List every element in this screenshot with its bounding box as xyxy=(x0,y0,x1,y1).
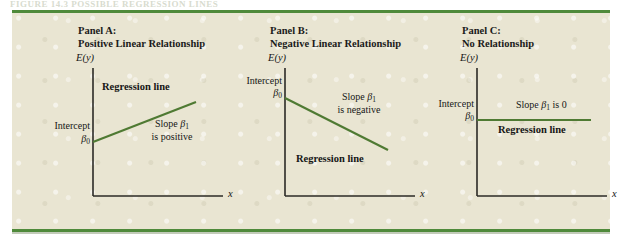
panel-c-slope-prefix: Slope xyxy=(516,99,541,110)
panel-c-intercept-label: Intercept xyxy=(418,98,474,109)
panel-c-slope-annotation: Slope β1 is 0 xyxy=(516,99,567,113)
panel-a-slope-annotation-line1: Slope β1 xyxy=(136,118,208,132)
panel-b: Panel B: Negative Linear Relationship E(… xyxy=(252,20,442,226)
panel-c-y-axis-label: E(y) xyxy=(460,52,478,63)
panel-c-slope-suffix: is 0 xyxy=(550,99,567,110)
panel-a-slope-prefix: Slope xyxy=(155,118,180,129)
panel-a: Panel A: Positive Linear Relationship E(… xyxy=(60,20,250,226)
panel-b-slope-prefix: Slope xyxy=(342,91,367,102)
figure-body: Panel A: Positive Linear Relationship E(… xyxy=(12,10,610,232)
panel-b-title-line1: Panel B: xyxy=(270,25,308,36)
panel-c-title: Panel C: No Relationship xyxy=(462,24,534,50)
top-rule xyxy=(12,10,610,13)
panel-a-slope-annotation-line2: is positive xyxy=(136,131,208,142)
panel-c-intercept-symbol: β0 xyxy=(418,110,474,124)
panel-b-title: Panel B: Negative Linear Relationship xyxy=(270,24,401,50)
panel-c-title-line1: Panel C: xyxy=(462,25,501,36)
panel-c-plot: E(y) x Intercept β0 Slope β1 is 0 Regres… xyxy=(444,54,622,224)
panel-b-slope-annotation-line2: is negative xyxy=(322,104,396,115)
panel-a-regression-label: Regression line xyxy=(102,81,170,92)
panel-a-x-axis-label: x xyxy=(228,188,233,199)
panel-b-x-axis-label: x xyxy=(420,188,425,199)
panel-b-regression-label: Regression line xyxy=(296,153,364,164)
panel-a-title: Panel A: Positive Linear Relationship xyxy=(78,24,205,50)
panel-c-title-line2: No Relationship xyxy=(462,37,534,50)
panel-a-y-axis-label: E(y) xyxy=(76,52,94,63)
panel-c-x-axis-label: x xyxy=(612,188,617,199)
panel-c-axes-svg xyxy=(444,54,622,224)
panel-a-plot: E(y) x Intercept β0 Regression line Slop… xyxy=(60,54,250,224)
panel-b-title-line2: Negative Linear Relationship xyxy=(270,37,401,50)
panel-b-plot: E(y) x Intercept β0 Slope β1 is negative… xyxy=(252,54,442,224)
figure-caption-sliver: FIGURE 14.3 POSSIBLE REGRESSION LINES xyxy=(10,0,250,8)
panel-b-slope-annotation-line1: Slope β1 xyxy=(322,91,396,105)
panel-a-intercept-label: Intercept xyxy=(36,120,90,131)
panel-a-title-line1: Panel A: xyxy=(78,25,116,36)
panel-a-title-line2: Positive Linear Relationship xyxy=(78,37,205,50)
bottom-rule-shadow xyxy=(12,232,610,234)
panel-b-intercept-symbol: β0 xyxy=(226,87,282,101)
panel-b-y-axis-label: E(y) xyxy=(268,52,286,63)
panel-a-intercept-symbol: β0 xyxy=(36,133,90,147)
panel-c: Panel C: No Relationship E(y) x Intercep… xyxy=(444,20,622,226)
panel-b-intercept-label: Intercept xyxy=(226,75,282,86)
panel-c-regression-label: Regression line xyxy=(498,124,566,135)
